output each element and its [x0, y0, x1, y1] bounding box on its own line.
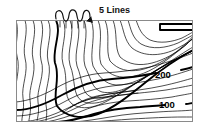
contour-map-figure: 5 Lines 200 100 — [0, 0, 208, 132]
contour-label-200: 200 — [155, 69, 171, 80]
contour-plot-svg: 5 Lines 200 100 — [0, 0, 208, 132]
contour-label-100: 100 — [159, 99, 175, 110]
contour-line-bold — [186, 103, 193, 104]
annotation-label: 5 Lines — [99, 5, 130, 15]
